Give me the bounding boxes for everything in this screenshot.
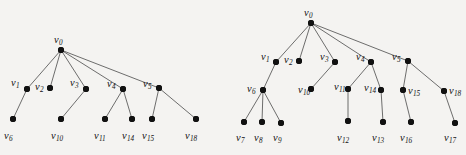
- node-label-v7: v7: [236, 133, 244, 144]
- tree-node-v9: [278, 120, 284, 126]
- node-label-v18: v18: [185, 131, 197, 142]
- tree-node-v4: [368, 59, 374, 65]
- node-label-v5: v5: [392, 52, 400, 63]
- tree-node-v6: [10, 116, 16, 122]
- tree-edge: [381, 90, 383, 122]
- node-label-v1: v1: [11, 78, 19, 89]
- node-label-v10: v10: [51, 131, 63, 142]
- node-label-v9: v9: [273, 133, 281, 144]
- node-label-v3: v3: [320, 52, 328, 63]
- node-label-v11: v11: [334, 82, 345, 93]
- tree-node-v18: [193, 116, 199, 122]
- node-label-v12: v12: [337, 133, 349, 144]
- tree-node-v15: [400, 87, 406, 93]
- node-label-v0: v0: [304, 8, 312, 19]
- tree-node-v8: [259, 119, 265, 125]
- node-label-v8: v8: [254, 133, 262, 144]
- tree-edge: [276, 23, 311, 62]
- tree-diagram-figure: v0v1v2v3v4v5v6v10v11v14v15v18v0v1v2v3v4v…: [0, 0, 466, 155]
- tree-node-v18: [441, 88, 447, 94]
- node-label-v4: v4: [107, 79, 115, 90]
- tree-edge: [152, 88, 159, 119]
- node-label-v14: v14: [364, 83, 376, 94]
- node-label-v5: v5: [143, 79, 151, 90]
- node-label-v10: v10: [298, 85, 310, 96]
- tree-node-v11: [102, 116, 108, 122]
- tree-node-v0: [58, 47, 64, 53]
- tree-edge: [13, 89, 27, 119]
- tree-edge: [262, 90, 263, 122]
- tree-node-v5: [156, 85, 162, 91]
- tree-node-v0: [308, 20, 314, 26]
- node-label-v6: v6: [4, 131, 12, 142]
- tree-node-v5: [405, 58, 411, 64]
- tree-edge: [263, 62, 276, 90]
- tree-edge: [263, 90, 281, 123]
- node-label-v18: v18: [449, 86, 461, 97]
- tree-node-v15: [149, 116, 155, 122]
- node-label-v3: v3: [70, 78, 78, 89]
- tree-node-v14: [129, 116, 135, 122]
- tree-edge: [105, 89, 123, 119]
- tree-node-v1: [273, 59, 279, 65]
- node-label-v15: v15: [142, 131, 154, 142]
- tree-node-v16: [408, 119, 414, 125]
- tree-node-v4: [120, 86, 126, 92]
- tree-edge: [50, 50, 61, 88]
- node-label-v15: v15: [408, 86, 420, 97]
- tree-node-v17: [452, 120, 458, 126]
- tree-edge: [299, 23, 311, 61]
- tree-edge: [159, 88, 196, 119]
- node-label-v16: v16: [400, 133, 412, 144]
- tree-node-v12: [345, 118, 351, 124]
- tree-node-v14: [378, 87, 384, 93]
- tree-edge: [311, 62, 335, 89]
- node-label-v17: v17: [444, 133, 456, 144]
- tree-node-v10: [58, 116, 64, 122]
- node-label-v13: v13: [372, 133, 384, 144]
- node-label-v2: v2: [35, 82, 43, 93]
- right-tree-edges: [244, 23, 455, 123]
- tree-node-v2: [296, 58, 302, 64]
- node-label-v6: v6: [247, 84, 255, 95]
- node-label-v11: v11: [94, 131, 105, 142]
- node-label-v0: v0: [54, 35, 62, 46]
- node-label-v4: v4: [356, 52, 364, 63]
- tree-node-v13: [380, 119, 386, 125]
- tree-edge: [27, 50, 61, 89]
- tree-node-v1: [24, 86, 30, 92]
- node-label-v1: v1: [261, 52, 269, 63]
- tree-node-v2: [47, 85, 53, 91]
- tree-node-v3: [332, 59, 338, 65]
- tree-node-v3: [83, 86, 89, 92]
- node-label-v2: v2: [284, 55, 292, 66]
- tree-edge: [123, 89, 132, 119]
- tree-edge: [61, 89, 86, 119]
- tree-node-v7: [241, 119, 247, 125]
- node-label-v14: v14: [122, 131, 134, 142]
- tree-node-v6: [260, 87, 266, 93]
